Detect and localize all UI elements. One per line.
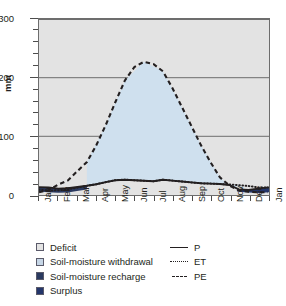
y-tick-label-0: 0 <box>9 190 14 201</box>
y-axis-major-tick <box>30 77 38 78</box>
chart-legend: Deficit Soil-moisture withdrawal Soil-mo… <box>0 240 286 300</box>
chart-svg <box>39 19 269 195</box>
x-axis-tick <box>173 196 174 201</box>
legend-label-et: ET <box>194 256 206 267</box>
x-tick-label-dec-11: Dec <box>254 186 264 202</box>
x-tick-label-apr-3: Apr <box>100 188 110 202</box>
plot-region <box>38 18 270 196</box>
y-axis-major-tick <box>30 196 38 197</box>
legend-line-dashed-icon <box>170 272 188 281</box>
y-tick-label-100: 100 <box>0 131 14 142</box>
x-tick-label-jul-6: Jul <box>158 190 168 202</box>
legend-label-soil-moisture-withdrawal: Soil-moisture withdrawal <box>50 256 153 267</box>
x-axis-tick <box>134 196 135 201</box>
x-tick-label-mar-2: Mar <box>81 187 91 203</box>
x-axis-tick <box>211 196 212 201</box>
legend-line-dotted-icon <box>170 257 188 266</box>
x-tick-label-sep-8: Sep <box>197 186 207 202</box>
x-axis-tick <box>269 196 270 201</box>
x-axis-tick <box>250 196 251 201</box>
x-axis-tick <box>115 196 116 201</box>
x-tick-label-oct-9: Oct <box>216 188 226 202</box>
legend-item-soil-moisture-recharge[interactable]: Soil-moisture recharge <box>36 269 153 284</box>
y-tick-label-300: 300 <box>0 13 14 24</box>
legend-item-deficit[interactable]: Deficit <box>36 240 153 255</box>
x-tick-label-aug-7: Aug <box>177 186 187 202</box>
legend-label-pe: PE <box>194 271 207 282</box>
legend-label-surplus: Surplus <box>50 285 82 296</box>
x-tick-label-may-4: May <box>120 185 130 202</box>
y-tick-label-200: 200 <box>0 72 14 83</box>
legend-item-pe[interactable]: PE <box>170 269 207 284</box>
y-axis-major-tick <box>30 18 38 19</box>
x-axis-tick <box>192 196 193 201</box>
chart-area: mm 300 200 100 0 <box>0 0 286 235</box>
x-tick-label-nov-10: Nov <box>235 186 245 202</box>
legend-line-solid-icon <box>170 243 188 252</box>
x-tick-label-jan-0: Jan <box>43 187 53 202</box>
legend-swatch-column: Deficit Soil-moisture withdrawal Soil-mo… <box>36 240 153 298</box>
x-axis-tick <box>154 196 155 201</box>
legend-item-soil-moisture-withdrawal[interactable]: Soil-moisture withdrawal <box>36 255 153 270</box>
y-axis-major-tick <box>30 136 38 137</box>
legend-item-et[interactable]: ET <box>170 255 207 270</box>
legend-label-p: P <box>194 242 200 253</box>
x-axis-tick <box>57 196 58 201</box>
legend-swatch-deficit <box>36 243 44 251</box>
legend-line-column: P ET PE <box>170 240 207 284</box>
legend-swatch-soil-moisture-recharge <box>36 272 44 280</box>
legend-swatch-surplus <box>36 287 44 295</box>
x-axis-tick <box>38 196 39 201</box>
legend-label-soil-moisture-recharge: Soil-moisture recharge <box>50 271 146 282</box>
water-balance-chart-figure: mm 300 200 100 0 <box>0 0 286 306</box>
legend-item-surplus[interactable]: Surplus <box>36 284 153 299</box>
legend-item-p[interactable]: P <box>170 240 207 255</box>
x-tick-label-feb-1: Feb <box>62 186 72 202</box>
x-tick-label-jan-12: Jan <box>274 187 284 202</box>
legend-label-deficit: Deficit <box>50 242 76 253</box>
x-axis-tick <box>96 196 97 201</box>
x-axis-tick <box>77 196 78 201</box>
x-tick-label-jun-5: Jun <box>139 187 149 202</box>
legend-swatch-soil-moisture-withdrawal <box>36 258 44 266</box>
x-axis-tick <box>231 196 232 201</box>
